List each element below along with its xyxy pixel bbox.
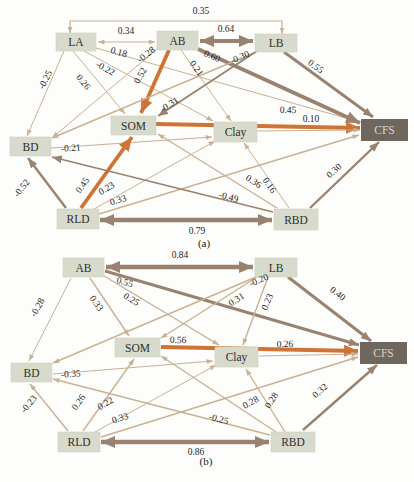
edge-RBD-CFS [310, 142, 379, 208]
edge-weight-label-LB-CFS: 0.55 [306, 58, 326, 76]
node-ab-a: AB [157, 31, 198, 50]
node-cfs-a: CFS [361, 119, 408, 141]
edge-weight-label-AB-CFS: 0.55 [115, 275, 134, 289]
node-rld-b: RLD [58, 432, 100, 452]
edge-LA-CFS [96, 48, 360, 122]
node-label: LA [68, 36, 84, 48]
node-label: Clay [226, 351, 248, 364]
edge-weight-label-AB-BD: -0.28 [28, 296, 47, 318]
edge-LA-BD [27, 51, 64, 136]
node-label: RBD [281, 436, 305, 448]
node-label: AB [76, 262, 92, 274]
node-ab-b: AB [63, 258, 104, 277]
edge-LB-CFS [288, 277, 371, 341]
edge-weight-label-RLD-RBD: 0.79 [189, 226, 206, 236]
edge-weight-label-RBD-Clay: 0.16 [261, 176, 279, 196]
node-label: AB [170, 35, 186, 47]
node-label: CFS [373, 347, 393, 359]
node-label: SOM [125, 342, 150, 354]
node-som-b: SOM [115, 338, 160, 357]
node-rbd-b: RBD [271, 432, 315, 452]
edge-weight-label-RLD-CFS: 0.33 [109, 193, 128, 207]
edge-SOM-CFS [156, 124, 360, 128]
node-label: LB [269, 262, 284, 274]
node-label: RLD [68, 436, 91, 448]
edge-Clay-CFS [259, 354, 358, 356]
node-bd-b: BD [11, 363, 52, 382]
edge-weight-label-LB-CFS: 0.40 [328, 285, 347, 303]
edge-weight-label-LA-Clay: -0.22 [94, 59, 116, 77]
node-bd-a: BD [10, 137, 51, 156]
figure-canvas: LAABLBSOMClayCFSBDRLDRBDABLBSOMClayCFSBD… [0, 0, 414, 482]
panel-caption-a: (a) [198, 237, 211, 250]
edge-SOM-CFS [161, 347, 358, 351]
node-clay-a: Clay [214, 122, 257, 142]
caption-layer: (a)(b) [198, 237, 213, 468]
node-label: BD [23, 141, 39, 153]
node-la-a: LA [56, 33, 96, 51]
edge-weight-label-RLD-CFS: 0.33 [111, 411, 130, 425]
edge-label-layer: 0.350.340.64-0.250.26-0.220.18-0.280.520… [12, 6, 348, 457]
node-label: LB [269, 37, 284, 49]
edge-Clay-CFS [257, 130, 360, 131]
edge-weight-label-Clay-CFS: 0.26 [277, 339, 294, 349]
edge-weight-label-RLD-BD: -0.23 [19, 393, 40, 415]
node-rld-a: RLD [57, 209, 99, 229]
edge-weight-label-LA-SOM: 0.26 [74, 73, 92, 92]
node-label: RLD [67, 213, 90, 225]
edge-weight-label-LA-CFS: 0.18 [109, 45, 128, 59]
node-rbd-a: RBD [274, 209, 318, 230]
correlation-network-figure: LAABLBSOMClayCFSBDRLDRBDABLBSOMClayCFSBD… [0, 0, 414, 482]
edge-weight-label-RBD-SOM: 0.36 [244, 173, 264, 190]
edge-weight-label-AB-CFS: 0.60 [203, 48, 222, 64]
edge-weight-label-RLD-BD: -0.52 [12, 177, 32, 199]
node-label: SOM [121, 120, 146, 132]
edge-weight-label-RBD-BD: -0.49 [218, 190, 240, 205]
edge-weight-label-LB-SOM: 0.31 [227, 291, 247, 309]
edge-weight-label-AB-LB: 0.84 [172, 250, 189, 260]
node-label: RBD [284, 214, 308, 226]
edge-weight-label-RBD-CFS: 0.32 [310, 381, 329, 400]
edge-weight-label-RLD-SOM: 0.26 [70, 392, 88, 412]
edge-weight-label-SOM-CFS: 0.56 [170, 335, 187, 345]
edge-weight-label-AB-LB: 0.64 [218, 24, 235, 34]
node-clay-b: Clay [215, 347, 258, 367]
edge-weight-label-SOM-CFS: 0.45 [280, 105, 297, 115]
edge-weight-label-LB-BD: -0.20 [248, 272, 270, 289]
node-label: Clay [225, 126, 247, 139]
edge-weight-label-RBD-Clay: 0.28 [263, 390, 281, 410]
edge-AB-BD [29, 278, 71, 361]
edge-weight-label-BD-Clay: -0.35 [61, 368, 82, 379]
edge-RBD-SOM [158, 134, 277, 208]
edge-weight-label-LA-AB: 0.34 [118, 26, 135, 36]
edge-weight-label-RLD-SOM: 0.45 [74, 175, 92, 195]
node-label: CFS [374, 124, 394, 136]
edge-weight-label-Clay-CFS: 0.10 [303, 114, 320, 124]
edge-weight-label-LB-SOM: -0.31 [158, 95, 180, 114]
panel-caption-b: (b) [200, 455, 213, 468]
node-som-a: SOM [111, 116, 156, 135]
edge-weight-label-AB-Clay: 0.21 [188, 59, 206, 79]
edge-weight-label-BD-Clay: -0.21 [61, 142, 82, 153]
edge-weight-label-LA-LB: 0.35 [193, 6, 210, 16]
node-cfs-b: CFS [360, 342, 407, 364]
edge-LB-SOM [161, 277, 257, 338]
node-label: BD [24, 367, 40, 379]
edge-weight-label-RBD-BD: -0.25 [208, 412, 230, 427]
edge-weight-label-AB-Clay: 0.25 [122, 291, 142, 308]
edge-RLD-BD [28, 158, 66, 208]
edge-weight-label-RLD-Clay: 0.22 [96, 395, 116, 412]
node-lb-a: LB [255, 34, 297, 52]
edge-RLD-BD [30, 384, 68, 431]
edge-weight-label-RBD-SOM: 0.28 [241, 394, 261, 411]
